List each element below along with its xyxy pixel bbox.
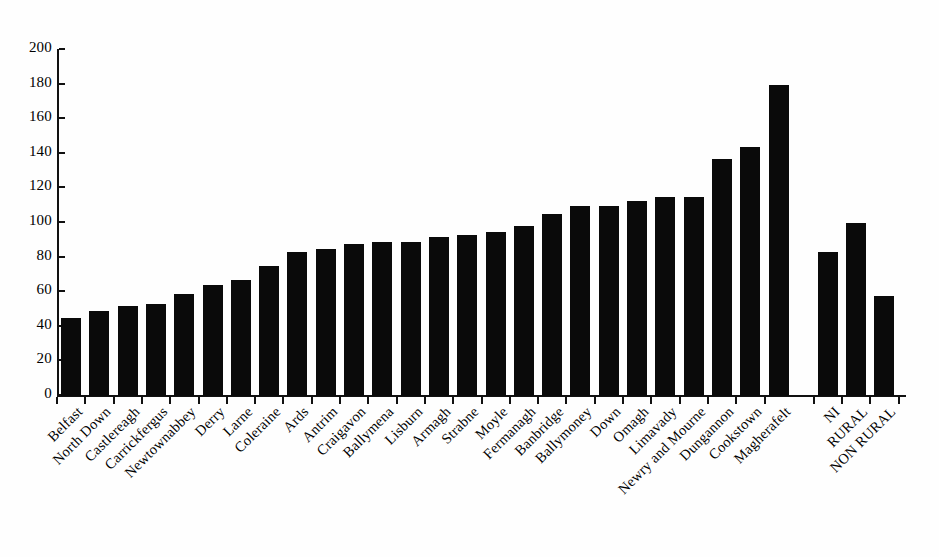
bar-ballymena [372, 242, 392, 396]
x-tick-23 [707, 397, 709, 404]
y-tick-label-200: 200 [12, 40, 52, 55]
x-tick-17 [537, 397, 539, 404]
y-tick-label-140: 140 [12, 144, 52, 159]
x-tick-7 [254, 397, 256, 404]
bar-antrim [316, 249, 336, 396]
x-tick-20 [622, 397, 624, 404]
x-tick-26 [813, 397, 815, 404]
x-tick-28 [869, 397, 871, 404]
bar-north-down [89, 311, 109, 396]
x-tick-14 [452, 397, 454, 404]
bar-rural [846, 223, 866, 396]
bar-newtownabbey [174, 294, 194, 396]
bar-banbridge [542, 214, 562, 396]
bar-craigavon [344, 244, 364, 396]
x-tick-25 [764, 397, 766, 404]
y-tick-label-100: 100 [12, 213, 52, 228]
x-tick-4 [169, 397, 171, 404]
x-tick-13 [424, 397, 426, 404]
bar-limavady [655, 197, 675, 396]
bar-castlereagh [118, 306, 138, 396]
bar-derry [203, 285, 223, 396]
x-tick-19 [594, 397, 596, 404]
x-tick-21 [650, 397, 652, 404]
x-tick-18 [565, 397, 567, 404]
y-tick-label-160: 160 [12, 109, 52, 124]
bar-down [599, 206, 619, 396]
bar-moyle [486, 232, 506, 396]
x-tick-27 [841, 397, 843, 404]
x-tick-24 [735, 397, 737, 404]
bar-lisburn [401, 242, 421, 396]
y-tick-label-20: 20 [12, 351, 52, 366]
bar-newry-and-mourne [684, 197, 704, 396]
x-tick-11 [367, 397, 369, 404]
x-tick-6 [226, 397, 228, 404]
x-tick-12 [396, 397, 398, 404]
y-tick-label-120: 120 [12, 178, 52, 193]
x-tick-16 [509, 397, 511, 404]
x-tick-29 [898, 397, 900, 404]
bar-chart: 020406080100120140160180200 BelfastNorth… [0, 0, 939, 557]
y-tick-label-80: 80 [12, 248, 52, 263]
bar-larne [231, 280, 251, 396]
bar-strabne [457, 235, 477, 396]
bar-ni [818, 252, 838, 396]
x-tick-8 [282, 397, 284, 404]
x-tick-1 [84, 397, 86, 404]
bar-coleraine [259, 266, 279, 396]
bar-armagh [429, 237, 449, 396]
bar-omagh [627, 201, 647, 396]
bar-fermanagh [514, 226, 534, 396]
bar-dungannon [712, 159, 732, 396]
x-tick-5 [198, 397, 200, 404]
bar-cookstown [740, 147, 760, 396]
bar-non-rural [874, 296, 894, 396]
x-tick-0 [56, 397, 58, 404]
plot-area [59, 49, 905, 396]
bar-belfast [61, 318, 81, 396]
x-tick-15 [481, 397, 483, 404]
x-tick-3 [141, 397, 143, 404]
bar-ballymoney [570, 206, 590, 396]
y-tick-label-0: 0 [12, 386, 52, 401]
y-tick-label-180: 180 [12, 75, 52, 90]
bar-carrickfergus [146, 304, 166, 396]
x-tick-22 [679, 397, 681, 404]
y-tick-label-40: 40 [12, 317, 52, 332]
x-tick-2 [113, 397, 115, 404]
bar-ards [287, 252, 307, 396]
y-tick-label-60: 60 [12, 282, 52, 297]
x-label-derry: Derry [192, 404, 227, 439]
x-tick-10 [339, 397, 341, 404]
bar-magherafelt [769, 85, 789, 396]
x-tick-9 [311, 397, 313, 404]
